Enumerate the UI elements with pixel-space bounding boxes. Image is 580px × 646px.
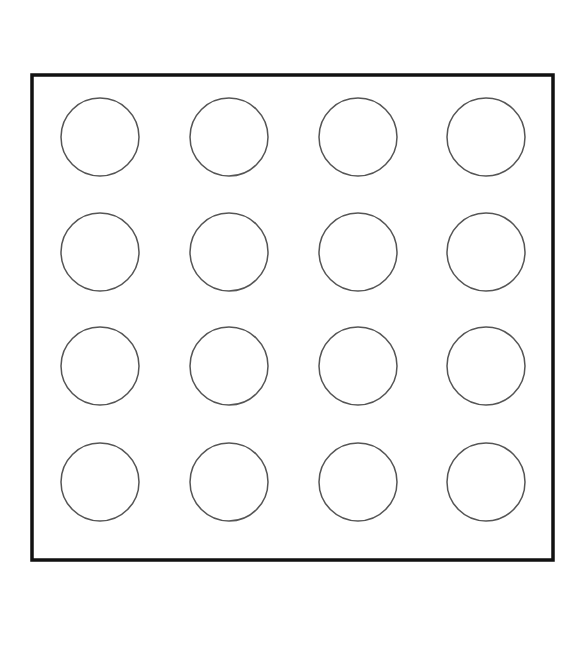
circle-r4-c2 <box>190 443 268 521</box>
circle-r1-c3 <box>319 98 397 176</box>
circle-r2-c4 <box>447 213 525 291</box>
circle-r2-c1 <box>61 213 139 291</box>
circle-r2-c2 <box>190 213 268 291</box>
circle-grid-diagram <box>0 0 580 646</box>
circle-r4-c4 <box>447 443 525 521</box>
circle-r2-c3 <box>319 213 397 291</box>
circle-r3-c2 <box>190 327 268 405</box>
circle-r3-c4 <box>447 327 525 405</box>
circle-r3-c1 <box>61 327 139 405</box>
circle-r4-c1 <box>61 443 139 521</box>
circle-r4-c3 <box>319 443 397 521</box>
circle-r1-c1 <box>61 98 139 176</box>
circle-r1-c4 <box>447 98 525 176</box>
background <box>0 0 580 646</box>
circle-r1-c2 <box>190 98 268 176</box>
circle-r3-c3 <box>319 327 397 405</box>
